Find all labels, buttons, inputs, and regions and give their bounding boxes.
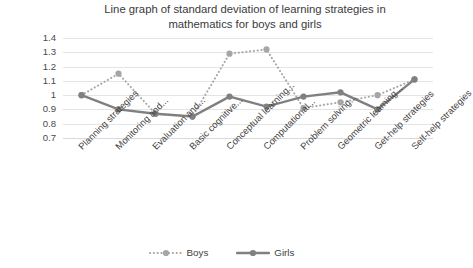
data-point <box>78 92 84 98</box>
y-axis-tick-label: 1.4 <box>22 33 56 43</box>
y-axis-tick-label: 1.1 <box>22 76 56 86</box>
legend-item-girls[interactable]: Girls <box>236 246 294 258</box>
chart-title: Line graph of standard deviation of lear… <box>95 2 395 31</box>
y-axis-tick-label: 0.7 <box>22 133 56 143</box>
data-point <box>337 89 343 95</box>
data-point <box>374 92 380 98</box>
y-axis-tick-label: 1.2 <box>22 62 56 72</box>
chart-legend: BoysGirls <box>0 246 443 258</box>
legend-label: Boys <box>187 247 209 258</box>
x-axis-category-labels: Planning strategiesMonitoring and...Eval… <box>63 140 433 232</box>
y-axis-tick-label: 1.3 <box>22 47 56 57</box>
legend-label: Girls <box>274 247 294 258</box>
series-line-boys <box>82 49 415 116</box>
data-point <box>263 46 269 52</box>
legend-item-boys[interactable]: Boys <box>149 246 209 258</box>
data-point <box>411 76 417 82</box>
data-point <box>115 71 121 77</box>
legend-swatch-boys <box>149 248 183 258</box>
y-axis-tick-label: 0.8 <box>22 119 56 129</box>
y-axis-tick-label: 0.9 <box>22 104 56 114</box>
y-axis-tick-labels: 1.41.31.21.110.90.80.7 <box>22 38 56 138</box>
legend-swatch-girls <box>236 248 270 258</box>
data-point <box>226 51 232 57</box>
y-axis-tick-label: 1 <box>22 90 56 100</box>
